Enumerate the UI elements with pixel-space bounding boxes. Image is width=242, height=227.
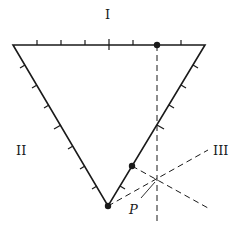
- label-region-ii: II: [16, 143, 26, 158]
- ternary-diagram: I II III P: [0, 0, 242, 227]
- dashed-construction-lines: [108, 45, 208, 222]
- label-point-p: P: [128, 202, 138, 217]
- point-p-leader: [141, 182, 155, 198]
- right-edge-dot: [129, 163, 135, 169]
- label-region-i: I: [105, 7, 110, 22]
- left-edge-ticks: [20, 65, 97, 189]
- label-region-iii: III: [213, 143, 228, 158]
- bottom-vertex-dot: [105, 203, 111, 209]
- right-edge-ticks: [120, 65, 198, 189]
- triangle-outline: [13, 45, 205, 206]
- top-edge-dot: [154, 42, 160, 48]
